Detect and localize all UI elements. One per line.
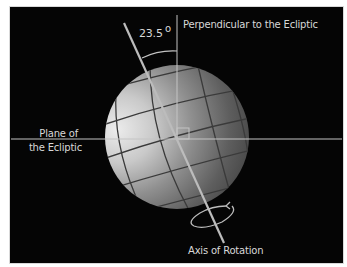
plane-label-line2: the Ecliptic [26,142,82,154]
plane-label-line1: Plane of [34,128,78,140]
tilt-angle-arc [142,51,177,58]
degree-symbol: o [165,23,171,35]
tilt-angle-value: 23.5 [139,28,163,40]
axis-label: Axis of Rotation [188,245,263,257]
perpendicular-label: Perpendicular to the Ecliptic [183,19,318,31]
